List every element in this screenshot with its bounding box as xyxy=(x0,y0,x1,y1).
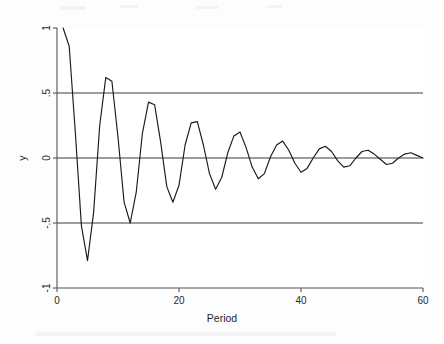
x-tick-label: 0 xyxy=(54,295,60,306)
y-tick-label: -1 xyxy=(41,283,52,292)
x-tick-label: 20 xyxy=(173,295,185,306)
y-tick-label: 1 xyxy=(41,25,52,31)
y-tick-label: .5 xyxy=(41,88,52,97)
y-tick-label: -.5 xyxy=(41,217,52,229)
x-tick-label: 60 xyxy=(417,295,429,306)
chart-figure: -1-.50.51 0204060 Period y xyxy=(0,0,444,344)
x-tick-label: 40 xyxy=(295,295,307,306)
damped-oscillation-chart: -1-.50.51 0204060 Period y xyxy=(0,0,444,344)
y-axis-title: y xyxy=(16,155,28,161)
y-tick-label: 0 xyxy=(41,155,52,161)
x-axis-title: Period xyxy=(207,312,238,324)
